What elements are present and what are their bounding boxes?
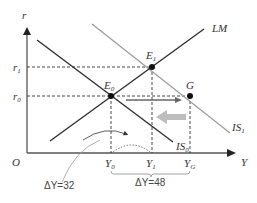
is0-label: IS0 (175, 140, 189, 154)
shift-arrows (126, 97, 186, 124)
delta-small-label: ΔY=32 (44, 180, 75, 191)
yg-label: YG (184, 157, 195, 171)
dotted-arc (113, 145, 150, 152)
lm-curve (50, 29, 204, 141)
solid-arc (83, 131, 126, 140)
r1-label: r1 (13, 61, 21, 75)
g-label: G (186, 79, 194, 91)
e0-label: E0 (103, 79, 115, 93)
y1-label: Y1 (146, 157, 156, 171)
is-lm-diagram: r Y O r1 r0 Y0 Y1 YG LM IS0 IS1 E0 E1 G … (0, 0, 257, 203)
point-g (187, 93, 193, 99)
y-axis-label: r (22, 9, 27, 21)
point-e0 (108, 93, 114, 99)
y0-label: Y0 (105, 157, 115, 171)
point-e1 (149, 64, 155, 70)
leftward-shift-arrow-shaft (166, 114, 186, 120)
curves (37, 24, 230, 142)
y-axis-arrow-icon (23, 27, 31, 35)
origin-label: O (12, 156, 20, 168)
x-axis-arrow-icon (227, 149, 236, 157)
r0-label: r0 (13, 90, 21, 104)
delta-small-leader (62, 140, 100, 182)
x-axis-label: Y (241, 156, 249, 168)
rightward-arrowhead-icon (175, 97, 182, 103)
delta-large-label: ΔY=48 (135, 177, 166, 188)
is1-label: IS1 (231, 121, 245, 135)
leftward-arrowhead-icon (156, 110, 167, 124)
e1-label: E1 (145, 49, 156, 63)
lm-label: LM (211, 22, 228, 34)
